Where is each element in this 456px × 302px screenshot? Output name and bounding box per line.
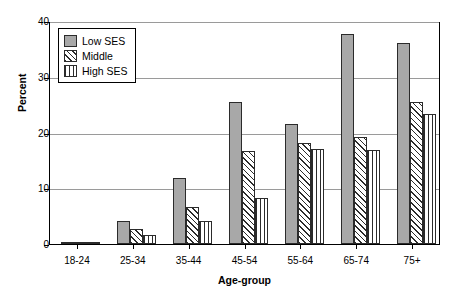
bar-chart: Percent 010203040 Age-group 18-2425-3435… [0, 0, 456, 302]
bar-35-44-high-ses [199, 221, 212, 244]
bar-55-64-middle [298, 143, 311, 244]
x-tick-mark [77, 245, 78, 249]
bar-45-54-low-ses [229, 102, 242, 244]
gridline-20 [50, 134, 439, 135]
x-tick-label: 75+ [384, 255, 440, 266]
bar-18-24-low-ses [61, 242, 74, 244]
x-tick-label: 55-64 [272, 255, 328, 266]
x-tick-label: 65-74 [328, 255, 384, 266]
legend-item-middle: Middle [64, 48, 128, 63]
bar-45-54-high-ses [255, 198, 268, 244]
bar-35-44-middle [186, 207, 199, 244]
x-tick-label: 35-44 [161, 255, 217, 266]
x-axis-title: Age-group [49, 274, 440, 286]
bar-75+-low-ses [397, 43, 410, 244]
bar-55-64-low-ses [285, 124, 298, 244]
x-axis: Age-group 18-2425-3435-4445-5455-6465-74… [49, 245, 440, 285]
bar-65-74-low-ses [341, 34, 354, 244]
x-tick-mark [412, 245, 413, 249]
legend-item-label: Middle [82, 50, 113, 62]
x-tick-label: 45-54 [217, 255, 273, 266]
legend-item-high-ses: High SES [64, 63, 128, 78]
x-tick-label: 18-24 [49, 255, 105, 266]
y-axis: Percent 010203040 [18, 0, 49, 302]
bar-25-34-high-ses [143, 235, 156, 244]
bar-55-64-high-ses [311, 149, 324, 244]
legend-item-label: Low SES [82, 35, 125, 47]
bar-75+-middle [410, 102, 423, 244]
x-tick-mark [133, 245, 134, 249]
bar-45-54-middle [242, 151, 255, 244]
x-tick-mark [245, 245, 246, 249]
legend-item-low-ses: Low SES [64, 33, 128, 48]
chart-legend: Low SESMiddleHigh SES [58, 28, 136, 83]
bar-65-74-high-ses [367, 150, 380, 244]
x-tick-mark [189, 245, 190, 249]
legend-item-label: High SES [82, 65, 128, 77]
x-tick-mark [300, 245, 301, 249]
gridline-40 [50, 22, 439, 23]
bar-18-24-middle [74, 242, 87, 244]
legend-swatch-icon [64, 35, 77, 47]
bar-18-24-high-ses [87, 242, 100, 244]
bar-35-44-low-ses [173, 178, 186, 244]
bar-25-34-middle [130, 229, 143, 244]
bar-75+-high-ses [423, 114, 436, 244]
x-tick-label: 25-34 [105, 255, 161, 266]
legend-swatch-icon [64, 65, 77, 77]
x-tick-mark [356, 245, 357, 249]
bar-25-34-low-ses [117, 221, 130, 244]
legend-swatch-icon [64, 50, 77, 62]
bar-65-74-middle [354, 137, 367, 244]
